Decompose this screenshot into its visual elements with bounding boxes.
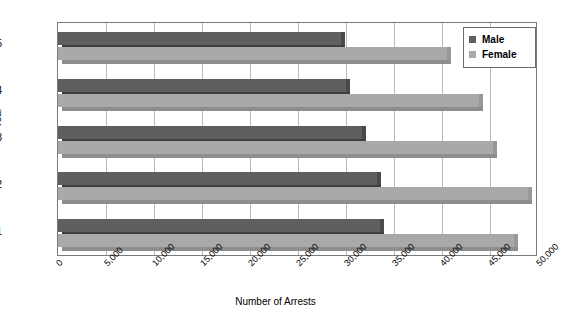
bar-shadow bbox=[62, 200, 532, 204]
y-tick-2002: 2002 bbox=[0, 179, 2, 190]
bar-group-2003 bbox=[58, 117, 536, 164]
y-axis-title: Year bbox=[0, 108, 3, 128]
bar-female-2005 bbox=[58, 47, 447, 60]
bar-cap bbox=[528, 187, 532, 200]
bar-body bbox=[58, 141, 493, 154]
bar-female-2001 bbox=[58, 234, 514, 247]
bar-cap bbox=[380, 219, 384, 232]
x-axis-title: Number of Arrests bbox=[0, 296, 551, 307]
x-tick-0: 0 bbox=[54, 257, 65, 268]
y-tick-2001: 2001 bbox=[0, 226, 2, 237]
x-tick-50000: 50,000 bbox=[534, 242, 561, 269]
legend-swatch-icon-male bbox=[469, 36, 476, 43]
bar-cap bbox=[493, 141, 497, 154]
bar-female-2002 bbox=[58, 187, 528, 200]
bar-group-2001 bbox=[58, 210, 536, 257]
bar-group-2002 bbox=[58, 163, 536, 210]
bar-body bbox=[58, 187, 528, 200]
bar-body bbox=[58, 219, 380, 232]
bar-female-2003 bbox=[58, 141, 493, 154]
bar-group-2004 bbox=[58, 70, 536, 117]
bar-cap bbox=[514, 234, 518, 247]
y-tick-2003: 2003 bbox=[0, 132, 2, 143]
bar-shadow bbox=[62, 107, 483, 111]
legend: MaleFemale bbox=[463, 27, 536, 68]
bar-shadow bbox=[62, 154, 497, 158]
bar-male-2002 bbox=[58, 172, 377, 185]
legend-label: Male bbox=[482, 34, 504, 45]
bar-cap bbox=[362, 126, 366, 139]
bar-male-2003 bbox=[58, 126, 362, 139]
legend-item-male: Male bbox=[469, 32, 530, 47]
bar-female-2004 bbox=[58, 94, 479, 107]
bar-body bbox=[58, 79, 346, 92]
bar-cap bbox=[341, 32, 345, 45]
bar-body bbox=[58, 47, 447, 60]
bar-cap bbox=[447, 47, 451, 60]
bar-male-2004 bbox=[58, 79, 346, 92]
bar-body bbox=[58, 94, 479, 107]
legend-item-female: Female bbox=[469, 47, 530, 62]
y-tick-2005: 2005 bbox=[0, 38, 2, 49]
y-tick-2004: 2004 bbox=[0, 85, 2, 96]
bar-male-2005 bbox=[58, 32, 341, 45]
bar-cap bbox=[346, 79, 350, 92]
legend-swatch-icon-female bbox=[469, 51, 476, 58]
bar-body bbox=[58, 234, 514, 247]
bar-cap bbox=[377, 172, 381, 185]
bar-body bbox=[58, 126, 362, 139]
bar-body bbox=[58, 172, 377, 185]
bar-body bbox=[58, 32, 341, 45]
legend-label: Female bbox=[482, 49, 516, 60]
bar-male-2001 bbox=[58, 219, 380, 232]
bar-shadow bbox=[62, 60, 451, 64]
bar-cap bbox=[479, 94, 483, 107]
